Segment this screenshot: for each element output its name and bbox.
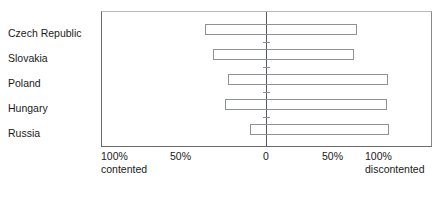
- bar-hungary: [225, 99, 387, 110]
- xtick-label: 100%: [101, 150, 147, 162]
- xtick-label: 100%: [365, 150, 425, 162]
- xtick-zero: 0: [259, 150, 273, 162]
- xtick-label: 0: [259, 150, 273, 162]
- category-label-hungary: Hungary: [0, 103, 92, 114]
- category-label-slovakia: Slovakia: [0, 53, 92, 64]
- diverging-bar-chart: Czech Republic Slovakia Poland Hungary R…: [0, 0, 446, 200]
- category-label-poland: Poland: [0, 78, 92, 89]
- bar-poland: [228, 74, 388, 85]
- bars-layer: [102, 12, 431, 146]
- bar-slovakia: [213, 49, 354, 60]
- xtick-label: 50%: [170, 150, 191, 162]
- category-label-russia: Russia: [0, 128, 92, 139]
- category-axis-labels: Czech Republic Slovakia Poland Hungary R…: [0, 11, 97, 147]
- xtick-minus-100: 100% contented: [101, 150, 147, 175]
- plot-area: [101, 11, 432, 147]
- xtick-minus-50: 50%: [170, 150, 191, 162]
- xtick-plus-50: 50%: [322, 150, 343, 162]
- xtick-sublabel-contented: contented: [101, 163, 147, 175]
- bar-czech-republic: [205, 24, 357, 35]
- xtick-label: 50%: [322, 150, 343, 162]
- bar-russia: [250, 124, 389, 135]
- xtick-plus-100: 100% discontented: [365, 150, 425, 175]
- value-axis-labels: 100% contented 50% 0 50% 100% discontent…: [0, 150, 446, 200]
- category-label-czech-republic: Czech Republic: [0, 28, 92, 39]
- xtick-sublabel-discontented: discontented: [365, 163, 425, 175]
